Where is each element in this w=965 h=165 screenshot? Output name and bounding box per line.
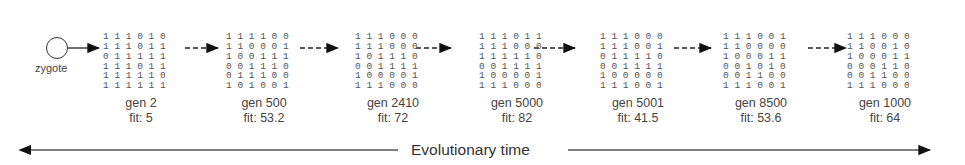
fitness-label: fit: 64 xyxy=(840,111,930,126)
fitness-label: fit: 82 xyxy=(472,111,562,126)
zygote-circle xyxy=(46,37,68,59)
timeline-label: Evolutionary time xyxy=(405,141,536,159)
stage-label: gen 5000 fit: 82 xyxy=(472,96,562,126)
stage-label: gen 5001 fit: 41.5 xyxy=(593,96,683,126)
stage-label: gen 2 fit: 5 xyxy=(96,96,186,126)
fitness-label: fit: 72 xyxy=(348,111,438,126)
fitness-label: fit: 53.6 xyxy=(716,111,806,126)
genome-matrix: 1 1 1 0 1 01 1 1 0 1 10 1 1 1 1 11 1 1 0… xyxy=(103,13,166,100)
generation-label: gen 8500 xyxy=(716,96,806,111)
generation-label: gen 5000 xyxy=(472,96,562,111)
genome-matrix: 1 1 1 0 0 11 1 0 0 0 01 0 0 0 1 10 0 1 0… xyxy=(723,13,786,100)
fitness-label: fit: 5 xyxy=(96,111,186,126)
genome-matrix: 1 1 1 0 0 01 1 1 0 0 10 1 1 1 1 00 0 1 1… xyxy=(600,13,663,100)
stage-label: gen 2410 fit: 72 xyxy=(348,96,438,126)
generation-label: gen 1000 xyxy=(840,96,930,111)
genome-matrix: 1 1 1 0 0 01 1 1 0 0 01 0 1 1 1 00 0 1 1… xyxy=(355,13,418,100)
generation-label: gen 2 xyxy=(96,96,186,111)
stage-label: gen 500 fit: 53.2 xyxy=(219,96,309,126)
fitness-label: fit: 53.2 xyxy=(219,111,309,126)
genome-matrix: 1 1 1 0 1 11 1 1 0 0 01 1 1 1 1 00 0 1 1… xyxy=(479,13,542,100)
stage-label: gen 8500 fit: 53.6 xyxy=(716,96,806,126)
zygote-label: zygote xyxy=(35,62,67,74)
generation-label: gen 5001 xyxy=(593,96,683,111)
genome-matrix: 1 1 1 1 0 01 1 0 0 0 11 0 0 1 1 10 0 1 1… xyxy=(226,13,289,100)
genome-matrix: 1 1 1 0 0 01 1 0 0 1 01 0 0 0 1 10 0 0 1… xyxy=(847,13,910,100)
stage-label: gen 1000 fit: 64 xyxy=(840,96,930,126)
fitness-label: fit: 41.5 xyxy=(593,111,683,126)
generation-label: gen 500 xyxy=(219,96,309,111)
generation-label: gen 2410 xyxy=(348,96,438,111)
